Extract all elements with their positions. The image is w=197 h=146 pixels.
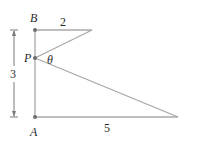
point-b (33, 28, 37, 32)
point-a (33, 115, 37, 119)
label-a: A (29, 125, 38, 139)
label-height: 3 (10, 67, 16, 81)
label-top-length: 2 (60, 15, 66, 29)
label-bottom-length: 5 (104, 121, 110, 135)
point-p (33, 56, 37, 60)
label-theta: θ (47, 53, 53, 67)
label-b: B (30, 11, 38, 25)
label-p: P (23, 51, 32, 65)
segment-p-bottom (35, 58, 178, 117)
geometry-diagram: B P A θ 2 5 3 (0, 0, 197, 146)
segment-p-top (35, 30, 92, 58)
